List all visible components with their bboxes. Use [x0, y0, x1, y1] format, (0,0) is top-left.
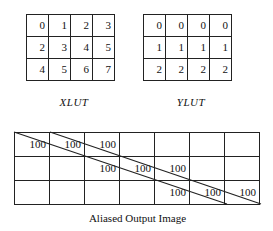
cell: 4: [27, 59, 49, 81]
cell: 1: [188, 37, 210, 59]
ylut-table: 0000 1111 2222: [143, 14, 232, 81]
cell: 2: [166, 59, 188, 81]
cell: 2: [188, 59, 210, 81]
cell: [120, 181, 155, 205]
cell: 5: [93, 37, 115, 59]
cell: 0: [27, 15, 49, 37]
cell: [190, 157, 225, 181]
cell: 100: [225, 181, 260, 205]
cell: [85, 181, 120, 205]
cell: [120, 133, 155, 157]
cell: 0: [188, 15, 210, 37]
cell: 1: [144, 37, 166, 59]
cell: 3: [49, 37, 71, 59]
cell: [190, 133, 225, 157]
cell: [225, 157, 260, 181]
cell: 1: [210, 37, 232, 59]
table-row: 100100100: [15, 181, 260, 205]
table-row: 0000: [144, 15, 232, 37]
cell: [15, 157, 50, 181]
cell: 2: [27, 37, 49, 59]
cell: 100: [190, 181, 225, 205]
cell: 0: [144, 15, 166, 37]
xlut-table: 0123 2345 4567: [26, 14, 115, 81]
cell: 7: [93, 59, 115, 81]
cell: 100: [155, 181, 190, 205]
table-row: 2345: [27, 37, 115, 59]
ylut-caption: YLUT: [141, 96, 241, 108]
cell: [15, 181, 50, 205]
cell: 1: [49, 15, 71, 37]
cell: [50, 181, 85, 205]
table-row: 0123: [27, 15, 115, 37]
cell: 4: [71, 37, 93, 59]
cell: 3: [93, 15, 115, 37]
cell: 100: [120, 157, 155, 181]
cell: 100: [50, 133, 85, 157]
cell: 2: [144, 59, 166, 81]
cell: 100: [155, 157, 190, 181]
cell: 1: [166, 37, 188, 59]
table-row: 100100100: [15, 157, 260, 181]
cell: 100: [85, 133, 120, 157]
cell: [155, 133, 190, 157]
cell: 5: [49, 59, 71, 81]
cell: [225, 133, 260, 157]
cell: 2: [210, 59, 232, 81]
cell: 6: [71, 59, 93, 81]
cell: [50, 157, 85, 181]
xlut-caption: XLUT: [24, 96, 124, 108]
output-image-grid: 100100100 100100100 100100100: [14, 132, 260, 205]
table-row: 2222: [144, 59, 232, 81]
table-row: 1111: [144, 37, 232, 59]
cell: 0: [210, 15, 232, 37]
cell: 2: [71, 15, 93, 37]
table-row: 4567: [27, 59, 115, 81]
cell: 0: [166, 15, 188, 37]
table-row: 100100100: [15, 133, 260, 157]
cell: 100: [15, 133, 50, 157]
output-caption: Aliased Output Image: [14, 212, 261, 224]
cell: 100: [85, 157, 120, 181]
